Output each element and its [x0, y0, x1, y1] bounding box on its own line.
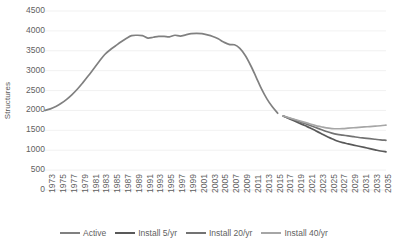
- legend-swatch-icon: [115, 232, 135, 234]
- legend-item[interactable]: Install 5/yr: [115, 228, 177, 238]
- x-tick-label: 2001: [200, 174, 209, 193]
- x-tick-label: 1993: [156, 174, 165, 193]
- x-tick-label: 1995: [167, 174, 176, 193]
- x-tick-label: 2015: [276, 174, 285, 193]
- legend-swatch-icon: [60, 232, 80, 234]
- x-tick-label: 1989: [135, 174, 144, 193]
- legend-swatch-icon: [186, 232, 206, 234]
- legend-item[interactable]: Active: [60, 228, 106, 238]
- x-tick-label: 1997: [178, 174, 187, 193]
- legend-item-label: Install 5/yr: [138, 228, 177, 238]
- series-line: [45, 33, 278, 113]
- x-tick-label: 1999: [189, 174, 198, 193]
- x-tick-label: 1979: [81, 174, 90, 193]
- x-tick-label: 2017: [286, 174, 295, 193]
- x-tick-label: 1981: [92, 174, 101, 193]
- x-tick-label: 2005: [221, 174, 230, 193]
- x-tick-label: 2019: [297, 174, 306, 193]
- x-tick-label: 2003: [211, 174, 220, 193]
- legend-item-label: Install 40/yr: [284, 228, 327, 238]
- legend-item-label: Active: [83, 228, 106, 238]
- legend-item[interactable]: Install 20/yr: [186, 228, 252, 238]
- x-tick-label: 2023: [319, 174, 328, 193]
- x-tick-label: 1991: [146, 174, 155, 193]
- legend-item-label: Install 20/yr: [209, 228, 252, 238]
- x-tick-label: 2033: [373, 174, 382, 193]
- legend-swatch-icon: [261, 232, 281, 234]
- x-tick-label: 2035: [384, 174, 393, 193]
- x-tick-label: 1973: [48, 174, 57, 193]
- x-tick-label: 1985: [113, 174, 122, 193]
- x-tick-label: 2021: [308, 174, 317, 193]
- x-tick-label: 1977: [70, 174, 79, 193]
- x-tick-label: 2009: [243, 174, 252, 193]
- x-tick-label: 1983: [102, 174, 111, 193]
- x-tick-label: 2007: [232, 174, 241, 193]
- x-tick-label: 2029: [351, 174, 360, 193]
- legend-item[interactable]: Install 40/yr: [261, 228, 327, 238]
- x-tick-label: 2025: [330, 174, 339, 193]
- chart-legend: ActiveInstall 5/yrInstall 20/yrInstall 4…: [0, 224, 388, 242]
- x-tick-label: 1975: [59, 174, 68, 193]
- x-axis-ticks: 1973197519771979198119831985198719891991…: [0, 0, 388, 45]
- x-tick-label: 2027: [340, 174, 349, 193]
- x-tick-label: 2013: [265, 174, 274, 193]
- x-tick-label: 2031: [362, 174, 371, 193]
- x-tick-label: 2011: [254, 175, 263, 193]
- x-tick-label: 1987: [124, 174, 133, 193]
